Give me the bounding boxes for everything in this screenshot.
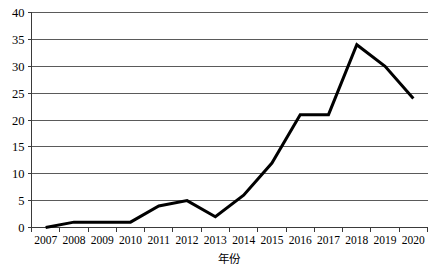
x-tick-label: 2012 [176,234,199,246]
x-tick-label: 2017 [317,234,340,246]
x-tick-label: 2016 [289,234,312,246]
chart-background [0,0,440,273]
x-tick-label: 2014 [232,234,255,246]
y-tick-label: 20 [12,114,25,128]
line-chart: 0510152025303540 20072008200920102011201… [0,0,440,273]
x-tick-label: 2018 [345,234,368,246]
x-tick-label: 2008 [62,234,85,246]
y-tick-label: 30 [12,60,25,74]
x-tick-label: 2013 [204,234,227,246]
y-tick-label: 40 [12,6,25,20]
x-tick-label: 2007 [34,234,57,246]
x-tick-label: 2019 [374,234,397,246]
y-tick-label: 0 [18,221,24,235]
x-tick-label: 2015 [260,234,283,246]
x-tick-label: 2011 [147,234,170,246]
y-tick-label: 25 [12,87,25,101]
x-tick-label: 2020 [402,234,425,246]
x-tick-label: 2010 [119,234,142,246]
y-tick-label: 15 [12,140,25,154]
chart-canvas: 0510152025303540 20072008200920102011201… [0,0,440,273]
y-tick-label: 5 [18,194,24,208]
x-axis-title: 年份 [218,252,241,265]
x-tick-label: 2009 [91,234,114,246]
y-tick-label: 35 [12,33,25,47]
y-tick-label: 10 [12,167,25,181]
